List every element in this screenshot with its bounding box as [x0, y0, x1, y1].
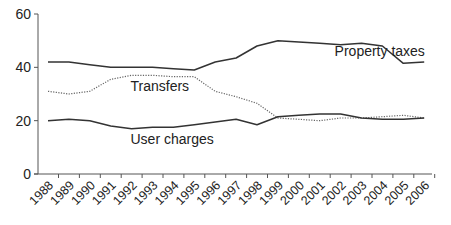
y-tick-label: 60 [15, 6, 31, 22]
label-property-taxes: Property taxes [335, 43, 425, 59]
y-tick-label: 40 [15, 59, 31, 75]
series-user-charges [48, 114, 424, 129]
axes: 0204060198819891990199119921993199419951… [15, 6, 434, 208]
y-tick-label: 20 [15, 113, 31, 129]
label-transfers: Transfers [131, 78, 190, 94]
line-chart: 0204060198819891990199119921993199419951… [0, 0, 451, 225]
chart-svg: 0204060198819891990199119921993199419951… [0, 0, 451, 225]
x-tick-label: 2006 [403, 178, 433, 208]
label-user-charges: User charges [131, 131, 214, 147]
y-tick-label: 0 [23, 166, 31, 182]
series-labels: Property taxesTransfersUser charges [131, 43, 425, 147]
series-transfers [48, 75, 424, 120]
